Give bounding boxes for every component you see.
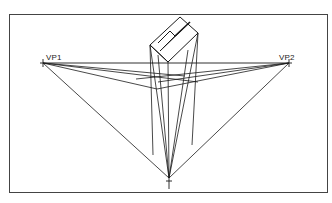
vp2-label: VP2	[279, 53, 295, 62]
vp1-label: VP1	[46, 53, 62, 62]
tilted-box	[150, 17, 198, 62]
vp2-convergence-lines	[136, 63, 289, 178]
vp1-convergence-lines	[43, 63, 198, 178]
vp3-marker	[166, 178, 172, 189]
perspective-diagram	[0, 0, 332, 203]
